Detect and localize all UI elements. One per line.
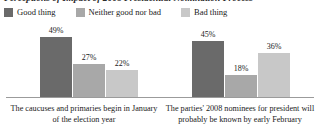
bar-neither-good-nor-bad-group-0: 27% (73, 23, 105, 97)
bar-value-neither-good-nor-bad-group-0: 27% (73, 54, 105, 62)
bar-group-nominees-known: 45% 18% 36% (192, 23, 292, 97)
bar-value-neither-good-nor-bad-group-1: 18% (225, 65, 257, 73)
legend-label-good-thing: Good thing (17, 8, 56, 17)
category-label-0: The caucuses and primaries begin in Janu… (8, 103, 160, 125)
bar-good-thing-group-0: 49% (40, 23, 72, 97)
legend-label-neither-good-nor-bad: Neither good nor bad (89, 8, 161, 17)
chart-legend: Good thing Neither good nor bad Bad thin… (0, 6, 320, 19)
bar-rect-bad-thing-group-0 (106, 70, 138, 97)
bar-value-bad-thing-group-1: 36% (258, 43, 290, 51)
legend-swatch-good-thing (4, 8, 13, 17)
bar-rect-neither-good-nor-bad-group-1 (225, 75, 257, 97)
x-axis-baseline (6, 97, 314, 98)
bar-group-caucuses-primaries: 49% 27% 22% (40, 23, 140, 97)
category-label-1: The parties' 2008 nominees for president… (164, 103, 316, 125)
bar-rect-neither-good-nor-bad-group-0 (73, 64, 105, 97)
legend-item-bad-thing: Bad thing (181, 8, 227, 17)
bar-value-good-thing-group-1: 45% (192, 31, 224, 39)
bar-value-bad-thing-group-0: 22% (106, 60, 138, 68)
bar-bad-thing-group-1: 36% (258, 23, 290, 97)
bar-rect-good-thing-group-0 (40, 37, 72, 97)
bar-bad-thing-group-0: 22% (106, 23, 138, 97)
bar-rect-bad-thing-group-1 (258, 53, 290, 97)
chart-title-clipped: Perceptions of Impact of 2008 Presidenti… (0, 0, 320, 5)
legend-swatch-neither-good-nor-bad (76, 8, 85, 17)
legend-label-bad-thing: Bad thing (194, 8, 227, 17)
plot-area: 49% 27% 22% 45% 18% 36% (0, 22, 320, 98)
bar-value-good-thing-group-0: 49% (40, 27, 72, 35)
bar-neither-good-nor-bad-group-1: 18% (225, 23, 257, 97)
bar-good-thing-group-1: 45% (192, 23, 224, 97)
bar-rect-good-thing-group-1 (192, 41, 224, 97)
chart-title: Perceptions of Impact of 2008 Presidenti… (4, 0, 253, 3)
legend-item-neither-good-nor-bad: Neither good nor bad (76, 8, 161, 17)
legend-item-good-thing: Good thing (4, 8, 56, 17)
category-captions: The caucuses and primaries begin in Janu… (0, 103, 320, 135)
legend-swatch-bad-thing (181, 8, 190, 17)
